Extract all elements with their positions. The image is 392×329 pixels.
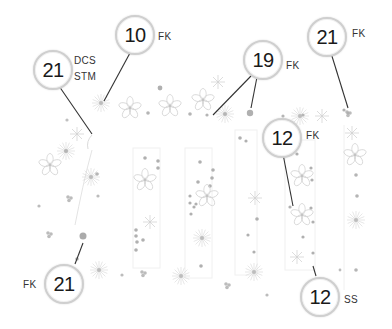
callout-tag-fk: FK (352, 27, 365, 41)
pattern-column-right (339, 125, 367, 290)
callout-tag-dcs: DCS (74, 54, 96, 68)
callout-12-ss: 12 (300, 277, 340, 317)
callout-number: 12 (309, 286, 330, 309)
pattern-column-3 (235, 130, 269, 297)
callout-21-fk-right: 21 (307, 17, 347, 57)
callout-19-fk: 19 (243, 40, 283, 80)
callout-number: 19 (252, 49, 273, 72)
callout-tag-fk: FK (306, 129, 319, 143)
pattern-column-4 (285, 140, 315, 270)
left-vine (37, 118, 100, 260)
callout-number: 12 (271, 127, 292, 150)
pattern-column-2 (172, 148, 231, 289)
callout-number: 21 (316, 26, 337, 49)
callout-12-fk: 12 (262, 118, 302, 158)
leader-lines (59, 53, 348, 276)
callout-tag-fk: FK (23, 278, 36, 292)
callout-10-fk: 10 (115, 15, 155, 55)
callout-tag-ss: SS (344, 293, 358, 307)
annotated-pattern-diagram: 21 DCS STM 10 FK 19 FK 21 FK 12 FK 21 FK… (0, 0, 392, 329)
callout-21-fk-left: 21 (44, 264, 84, 304)
callout-number: 10 (124, 24, 145, 47)
callout-number: 21 (42, 59, 63, 82)
callout-tag-stm: STM (74, 70, 96, 84)
callout-tag-fk: FK (286, 59, 299, 73)
callout-tag-fk: FK (158, 30, 171, 44)
callout-number: 21 (53, 273, 74, 296)
pattern-column-1 (90, 148, 160, 279)
top-floral-band (92, 75, 352, 125)
callout-21-dcs-stm: 21 (33, 50, 73, 90)
